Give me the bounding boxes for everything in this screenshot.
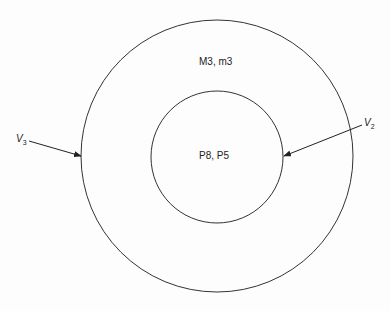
inner-circle-label: P8, P5 xyxy=(199,150,229,161)
v3-label-name: V xyxy=(16,133,23,144)
v3-label: V3 xyxy=(16,133,27,146)
v2-label-subscript: 2 xyxy=(371,123,375,130)
concentric-circle-diagram xyxy=(0,0,390,311)
v2-label: V2 xyxy=(364,117,375,130)
v2-label-name: V xyxy=(364,117,371,128)
v3-label-subscript: 3 xyxy=(23,139,27,146)
arrow-v3 xyxy=(29,141,81,156)
outer-circle-label: M3, m3 xyxy=(199,56,232,67)
arrow-v2 xyxy=(284,125,362,156)
